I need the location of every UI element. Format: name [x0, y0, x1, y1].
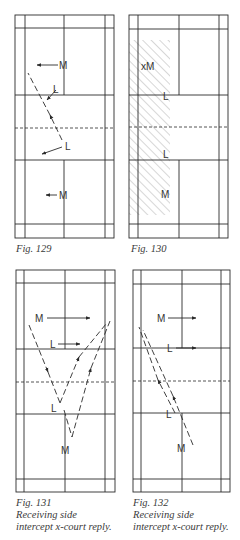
- caption-line: Receiving side: [133, 509, 229, 521]
- player-label: L: [167, 343, 173, 354]
- player-label: M: [161, 189, 169, 200]
- player-label: xM: [141, 61, 154, 72]
- shot-path-arrow: [72, 368, 91, 437]
- caption-title: Fig. 130: [131, 243, 167, 255]
- player-label: L: [51, 403, 57, 414]
- player-label: L: [50, 339, 56, 350]
- player-label: L: [166, 409, 172, 420]
- player-label: M: [157, 313, 165, 324]
- court-fig-129: MLLM: [15, 15, 114, 238]
- shot-path-arrow: [173, 396, 193, 445]
- caption-line: Receiving side: [16, 509, 112, 521]
- caption-fig-132: Fig. 132 Receiving side intercept x-cour…: [133, 497, 229, 533]
- player-label: L: [65, 141, 71, 152]
- shot-path-arrow: [48, 372, 60, 403]
- player-label: L: [53, 84, 59, 95]
- movement-arrow: [42, 147, 62, 154]
- caption-line: intercept x-court reply.: [16, 521, 112, 533]
- shot-path-arrow: [50, 115, 62, 140]
- caption-fig-129: Fig. 129: [16, 243, 52, 255]
- player-label: M: [177, 443, 185, 454]
- player-label: L: [163, 91, 169, 102]
- caption-fig-130: Fig. 130: [131, 243, 167, 255]
- shot-path-arrow: [143, 330, 173, 396]
- player-label: M: [59, 190, 67, 201]
- court-boundary: [16, 270, 115, 492]
- player-label: M: [61, 445, 69, 456]
- court-fig-132: MLLM: [133, 270, 230, 492]
- caption-fig-131: Fig. 131 Receiving side intercept x-cour…: [16, 497, 112, 533]
- shot-path-arrow: [29, 325, 48, 372]
- caption-title: Fig. 132: [133, 497, 229, 509]
- player-label: M: [35, 313, 43, 324]
- caption-title: Fig. 129: [16, 243, 52, 255]
- court-fig-130: xMLLM: [129, 15, 228, 238]
- player-label: M: [59, 60, 67, 71]
- player-label: L: [163, 149, 169, 160]
- shot-path-arrow: [91, 321, 110, 368]
- shot-path-arrow: [60, 357, 79, 403]
- court-fig-131: MLLM: [16, 270, 115, 492]
- court-boundary: [15, 15, 114, 238]
- badminton-tactics-diagram: MLLM xMLLM MLLM MLLM: [0, 0, 240, 540]
- shot-path-arrow: [28, 73, 50, 115]
- caption-title: Fig. 131: [16, 497, 112, 509]
- caption-line: intercept x-court reply.: [133, 521, 229, 533]
- shot-path-arrow: [139, 327, 158, 380]
